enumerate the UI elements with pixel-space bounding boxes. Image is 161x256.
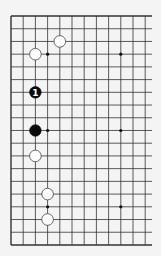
- star-point-icon: [119, 53, 122, 56]
- star-point-icon: [46, 205, 49, 208]
- white-stone: [42, 188, 54, 200]
- star-point-icon: [119, 205, 122, 208]
- white-stone: [42, 214, 54, 226]
- white-stone: [30, 150, 42, 162]
- white-stone: [54, 36, 66, 48]
- star-point-icon: [119, 129, 122, 132]
- star-point-icon: [46, 53, 49, 56]
- black-stone: [30, 125, 42, 137]
- white-stone: [30, 48, 42, 60]
- star-point-icon: [46, 129, 49, 132]
- go-board: 1: [0, 0, 161, 256]
- move-number-label: 1: [32, 88, 38, 98]
